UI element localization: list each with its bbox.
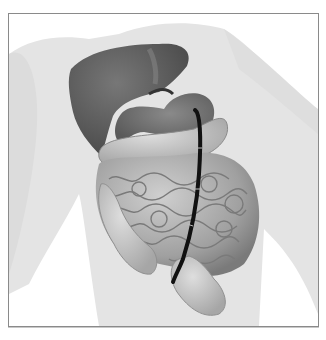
- digestive-system-illustration: [9, 14, 318, 326]
- illustration-frame: [8, 13, 319, 327]
